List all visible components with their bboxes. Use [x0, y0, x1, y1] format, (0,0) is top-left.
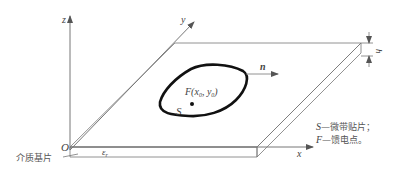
- permittivity-label: εr: [102, 147, 109, 158]
- thickness-label: h: [374, 49, 384, 54]
- substrate-callout: 介质基片: [16, 152, 78, 163]
- legend-item-patch: S—微带贴片；: [316, 121, 375, 132]
- origin-label: O: [61, 141, 69, 153]
- x-axis-label: x: [296, 148, 302, 159]
- y-axis-label: y: [180, 14, 186, 25]
- microstrip-patch-antenna-diagram: z y x h S n F(x0, y0): [0, 0, 399, 172]
- patch-normal: n: [246, 61, 278, 74]
- feed-point-label: F(x0, y0): [184, 86, 218, 98]
- substrate-label: 介质基片: [16, 152, 52, 163]
- patch-label: S: [176, 105, 182, 117]
- legend: S—微带贴片； F—馈电点。: [315, 121, 375, 145]
- z-axis: z: [61, 14, 70, 150]
- z-axis-label: z: [61, 14, 66, 25]
- feed-point: F(x0, y0): [184, 86, 218, 106]
- y-axis: y: [70, 14, 194, 150]
- feed-point-dot: [190, 102, 194, 106]
- legend-item-feed: F—馈电点。: [315, 134, 367, 145]
- normal-label: n: [260, 61, 266, 72]
- thickness-dimension: h: [361, 32, 384, 67]
